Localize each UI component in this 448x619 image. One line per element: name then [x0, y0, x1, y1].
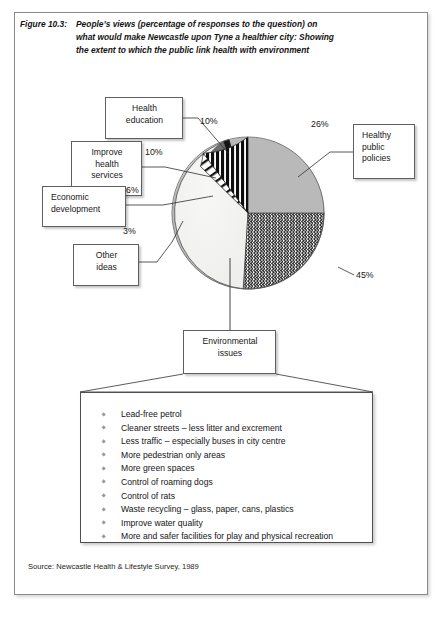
callout-improve-health-line-2: health [80, 159, 134, 171]
list-item-label: Control of roaming dogs [121, 477, 213, 487]
caption-line-2: what would make Newcastle upon Tyne a he… [76, 31, 392, 44]
bullet-icon [102, 508, 106, 512]
callout-other-ideas[interactable]: Other ideas [73, 244, 139, 286]
environmental-issues-list-panel: Lead-free petrol Cleaner streets – less … [80, 392, 373, 543]
bullet-icon [102, 494, 106, 498]
data-label-environmental-issues: 45% [356, 270, 374, 280]
data-label-economic-development: 6% [126, 185, 139, 195]
callout-healthy-public-policies[interactable]: Healthy public policies [353, 124, 415, 179]
list-item: Control of rats [100, 490, 362, 504]
callout-economic-dev-line-1: Economic [51, 192, 118, 204]
data-label-healthy-public-policies: 26% [311, 119, 329, 129]
data-label-improve-health-services: 10% [145, 147, 163, 157]
list-item: More and safer facilities for play and p… [100, 530, 362, 544]
callout-healthy-public-line-3: policies [362, 153, 407, 165]
list-item-label: Control of rats [121, 491, 175, 501]
callout-environmental-issues[interactable]: Environmental issues [183, 330, 276, 374]
callout-improve-health-line-1: Improve [80, 147, 134, 159]
list-item: Less traffic – especially buses in city … [100, 435, 362, 449]
figure-label: Figure 10.3: [20, 18, 76, 58]
list-item-label: Cleaner streets – less litter and excrem… [121, 423, 282, 433]
list-item-label: Improve water quality [121, 518, 203, 528]
callout-health-education-line-1: Health [114, 103, 175, 115]
figure-caption-text: People’s views (percentage of responses … [76, 18, 392, 58]
figure-caption: Figure 10.3: People’s views (percentage … [20, 18, 392, 58]
callout-healthy-public-line-2: public [362, 142, 407, 154]
list-item-label: More pedestrian only areas [121, 450, 225, 460]
data-label-other-ideas: 3% [123, 226, 136, 236]
bullet-icon [102, 521, 106, 525]
callout-environmental-line-2: issues [192, 348, 268, 360]
callout-economic-dev-line-2: development [51, 204, 118, 216]
list-item-label: More and safer facilities for play and p… [121, 531, 333, 541]
list-item-label: Lead-free petrol [121, 409, 182, 419]
bullet-icon [102, 426, 106, 430]
data-label-health-education: 10% [200, 116, 218, 126]
caption-line-1: People’s views (percentage of responses … [76, 18, 392, 31]
list-item: Control of roaming dogs [100, 476, 362, 490]
list-item: Lead-free petrol [100, 408, 362, 422]
callout-health-education[interactable]: Health education [105, 97, 183, 139]
list-item: More pedestrian only areas [100, 449, 362, 463]
list-item-label: More green spaces [121, 463, 195, 473]
list-item-label: Waste recycling – glass, paper, cans, pl… [121, 504, 294, 514]
callout-improve-health-line-3: services [80, 170, 134, 182]
callout-healthy-public-line-1: Healthy [362, 130, 407, 142]
caption-line-3: the extent to which the public link heal… [76, 44, 392, 57]
bullet-icon [102, 535, 106, 539]
bullet-icon [102, 440, 106, 444]
bullet-icon [102, 467, 106, 471]
list-item: Waste recycling – glass, paper, cans, pl… [100, 503, 362, 517]
callout-health-education-line-2: education [114, 115, 175, 127]
callout-other-ideas-line-2: ideas [82, 262, 131, 274]
list-item-label: Less traffic – especially buses in city … [121, 436, 286, 446]
bullet-icon [102, 413, 106, 417]
list-item: Improve water quality [100, 517, 362, 531]
environmental-issues-list: Lead-free petrol Cleaner streets – less … [100, 408, 362, 544]
callout-other-ideas-line-1: Other [82, 250, 131, 262]
list-item: More green spaces [100, 462, 362, 476]
bullet-icon [102, 453, 106, 457]
callout-environmental-line-1: Environmental [192, 336, 268, 348]
list-item: Cleaner streets – less litter and excrem… [100, 422, 362, 436]
source-note: Source: Newcastle Health & Lifestyle Sur… [28, 562, 199, 572]
callout-economic-development[interactable]: Economic development [42, 186, 126, 227]
bullet-icon [102, 480, 106, 484]
